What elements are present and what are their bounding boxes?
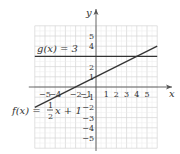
x-tick-label: 1 (104, 90, 109, 99)
y-tick-label: −1 (82, 93, 94, 102)
x-tick-label: 3 (124, 90, 129, 99)
f-label-numerator: 1 (48, 101, 53, 110)
f-label-denominator: 2 (48, 112, 53, 121)
f-label-suffix: x + 1 (55, 105, 82, 116)
x-tick-label: 5 (144, 90, 149, 99)
y-tick-label: −5 (82, 134, 94, 143)
y-axis-label: y (85, 7, 92, 18)
y-tick-label: 2 (89, 63, 94, 72)
y-tick-label: 4 (89, 42, 94, 51)
f-label-prefix: f(x) = (11, 105, 41, 116)
graph: −5−4−2−1123455421−1−2−3−4−5 y x g(x) = 3… (0, 0, 180, 154)
y-tick-label: 5 (89, 32, 94, 41)
f-function-label: f(x) = 1 2 x + 1 (11, 101, 82, 121)
y-tick-label: −3 (82, 114, 94, 123)
g-function-label: g(x) = 3 (37, 43, 78, 54)
y-tick-label: −2 (82, 103, 94, 112)
x-axis-label: x (169, 88, 175, 99)
y-tick-label: −4 (82, 124, 94, 133)
x-tick-label: 2 (114, 90, 119, 99)
x-tick-label: 4 (134, 90, 139, 99)
